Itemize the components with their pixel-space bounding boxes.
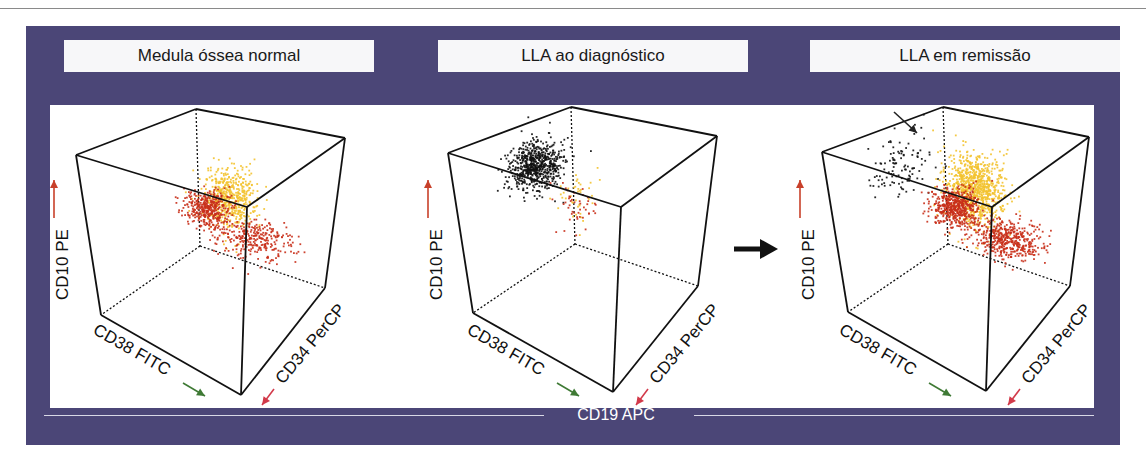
data-point — [987, 197, 989, 199]
data-point — [259, 237, 261, 239]
data-point — [256, 224, 258, 226]
cd10-direction-arrow-head — [424, 180, 432, 188]
cube-panel-3: CD10 PECD38 FITCCD34 PerCP — [796, 107, 1095, 405]
data-point — [214, 189, 216, 191]
data-point — [517, 170, 519, 172]
data-point — [227, 167, 229, 169]
data-point — [550, 173, 552, 175]
data-point — [209, 204, 211, 206]
data-point — [231, 163, 233, 165]
data-point — [1009, 247, 1011, 249]
data-point — [982, 177, 984, 179]
data-point — [201, 188, 203, 190]
data-point — [963, 181, 965, 183]
data-point — [577, 218, 579, 220]
data-point — [1022, 261, 1024, 263]
data-point — [971, 168, 973, 170]
data-point — [993, 250, 995, 252]
data-point — [897, 196, 899, 198]
data-point — [1006, 252, 1008, 254]
data-point — [292, 242, 294, 244]
data-point — [974, 194, 976, 196]
data-point — [248, 244, 250, 246]
data-point — [983, 193, 985, 195]
data-point — [582, 188, 584, 190]
data-point — [995, 252, 997, 254]
data-point — [893, 166, 895, 168]
data-point — [284, 251, 286, 253]
data-point — [207, 197, 209, 199]
data-point — [254, 230, 256, 232]
data-point — [550, 158, 552, 160]
data-point — [254, 225, 256, 227]
transition-arrow — [734, 239, 778, 259]
data-point — [260, 247, 262, 249]
data-point — [240, 226, 242, 228]
data-point — [197, 206, 199, 208]
data-point — [955, 222, 957, 224]
data-point — [987, 195, 989, 197]
data-point — [242, 257, 244, 259]
data-point — [251, 221, 253, 223]
data-point — [545, 175, 547, 177]
data-point — [249, 238, 251, 240]
data-point — [189, 217, 191, 219]
data-point — [222, 192, 224, 194]
data-point — [555, 181, 557, 183]
data-point — [554, 169, 556, 171]
data-point — [196, 216, 198, 218]
data-point — [546, 188, 548, 190]
data-point — [232, 209, 234, 211]
data-point — [553, 160, 555, 162]
data-point — [518, 151, 520, 153]
data-point — [260, 230, 262, 232]
data-point — [952, 192, 954, 194]
data-point — [259, 228, 261, 230]
data-point — [953, 183, 955, 185]
data-point — [957, 205, 959, 207]
data-point — [203, 215, 205, 217]
data-point — [972, 192, 974, 194]
data-point — [241, 191, 243, 193]
data-point — [527, 168, 529, 170]
data-point — [226, 169, 228, 171]
data-point — [552, 152, 554, 154]
data-point — [194, 209, 196, 211]
data-point — [880, 163, 882, 165]
data-point — [1001, 236, 1003, 238]
data-point — [997, 178, 999, 180]
data-point — [214, 199, 216, 201]
data-point — [198, 198, 200, 200]
data-point — [982, 176, 984, 178]
data-point — [532, 137, 534, 139]
axis-label-cd34: CD34 PerCP — [646, 300, 724, 387]
data-point — [556, 183, 558, 185]
data-point — [592, 202, 594, 204]
data-point — [946, 213, 948, 215]
data-point — [870, 185, 872, 187]
data-point — [976, 158, 978, 160]
data-point — [257, 190, 259, 192]
data-point — [892, 162, 894, 164]
data-point — [529, 169, 531, 171]
data-point — [231, 207, 233, 209]
data-point — [223, 214, 225, 216]
data-point — [1022, 232, 1024, 234]
data-point — [937, 178, 939, 180]
data-point — [993, 232, 995, 234]
data-point — [240, 241, 242, 243]
data-point — [536, 167, 538, 169]
data-point — [1000, 250, 1002, 252]
data-point — [582, 220, 584, 222]
data-point — [985, 249, 987, 251]
data-point — [965, 163, 967, 165]
data-point — [545, 165, 547, 167]
data-point — [563, 174, 565, 176]
data-point — [224, 228, 226, 230]
data-point — [944, 184, 946, 186]
data-point — [519, 154, 521, 156]
data-point — [1032, 249, 1034, 251]
data-point — [222, 241, 224, 243]
data-point — [940, 192, 942, 194]
data-point — [963, 189, 965, 191]
